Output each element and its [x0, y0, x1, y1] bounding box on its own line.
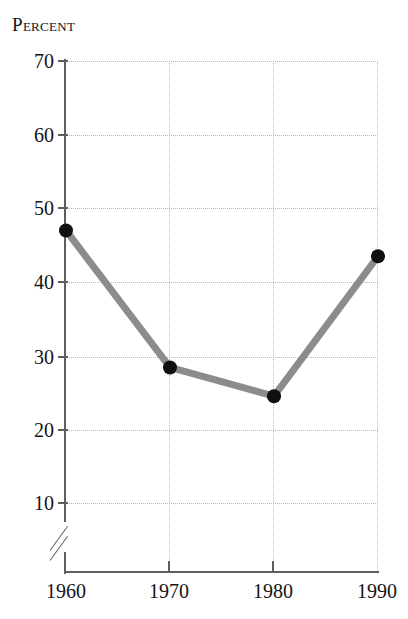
- x-tick-mark-1980: [272, 561, 274, 573]
- y-axis-break-icon: [50, 516, 82, 560]
- x-tick-mark-1970: [168, 561, 170, 573]
- y-tick-mark-10: [58, 502, 68, 504]
- y-tick-label-50: 50: [34, 198, 54, 218]
- gridline-vertical-1980: [273, 61, 274, 572]
- y-tick-label-70: 70: [34, 51, 54, 71]
- y-tick-label-30: 30: [34, 347, 54, 367]
- plot-area: [66, 61, 378, 572]
- gridline-horizontal-20: [66, 430, 378, 431]
- y-tick-label-20: 20: [34, 420, 54, 440]
- gridline-horizontal-70: [66, 61, 378, 62]
- x-tick-label-1960: 1960: [21, 580, 111, 602]
- x-tick-label-1990: 1990: [332, 580, 408, 602]
- x-axis-line: [64, 571, 379, 573]
- y-axis-line: [64, 59, 66, 574]
- y-tick-label-60: 60: [34, 125, 54, 145]
- gridline-horizontal-30: [66, 357, 378, 358]
- y-tick-mark-30: [58, 356, 68, 358]
- gridline-horizontal-60: [66, 135, 378, 136]
- y-tick-mark-40: [58, 281, 68, 283]
- gridline-horizontal-50: [66, 208, 378, 209]
- chart-title: Percent: [12, 14, 75, 36]
- gridline-horizontal-40: [66, 282, 378, 283]
- gridline-vertical-1970: [169, 61, 170, 572]
- gridline-horizontal-10: [66, 503, 378, 504]
- chart-figure: Percent 70 60 50 40 30 20 10 1960 1970 1…: [0, 0, 408, 619]
- y-tick-mark-60: [58, 134, 68, 136]
- gridline-vertical-1990: [377, 61, 378, 572]
- x-tick-label-1980: 1980: [228, 580, 318, 602]
- y-tick-mark-50: [58, 207, 68, 209]
- y-tick-label-40: 40: [34, 272, 54, 292]
- y-tick-mark-20: [58, 429, 68, 431]
- y-tick-mark-70: [58, 60, 68, 62]
- y-tick-label-10: 10: [34, 493, 54, 513]
- x-tick-label-1970: 1970: [124, 580, 214, 602]
